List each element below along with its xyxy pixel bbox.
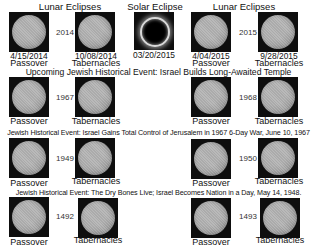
feast-label-tabernacles: Tabernacles — [249, 117, 309, 126]
lunar-eclipse-moon-icon — [194, 80, 228, 114]
lunar-eclipse-image-1949-tabernacles — [75, 138, 115, 178]
lunar-eclipse-image-2014-tabernacles — [75, 12, 115, 52]
feast-label-passover: Passover — [181, 238, 241, 245]
lunar-eclipse-moon-icon — [78, 80, 112, 114]
lunar-eclipse-image-1949-passover — [9, 138, 49, 178]
lunar-eclipse-image-2015-passover — [191, 12, 231, 52]
lunar-eclipse-moon-icon — [194, 142, 228, 176]
lunar-eclipse-moon-icon — [12, 15, 46, 49]
lunar-eclipse-image-1950-tabernacles — [258, 138, 298, 178]
feast-label-tabernacles: Tabernacles — [66, 177, 126, 186]
year-label-1968: 1968 — [238, 93, 258, 102]
lunar-eclipse-image-2015-tabernacles — [258, 12, 298, 52]
year-label-1949: 1949 — [55, 154, 75, 163]
year-label-1967: 1967 — [55, 93, 75, 102]
lunar-eclipse-image-1492-tabernacles — [78, 198, 118, 238]
feast-label-tabernacles: Tabernacles — [250, 236, 310, 245]
lunar-eclipses-title-left: Lunar Eclipses — [30, 1, 110, 12]
lunar-eclipse-image-1968-passover — [191, 77, 231, 117]
lunar-eclipse-image-1967-tabernacles — [75, 77, 115, 117]
year-label-2015: 2015 — [238, 28, 258, 37]
lunar-eclipse-moon-icon — [12, 200, 46, 234]
lunar-eclipse-moon-icon — [194, 15, 228, 49]
lunar-eclipse-moon-icon — [263, 201, 297, 235]
lunar-eclipse-moon-icon — [12, 141, 46, 175]
feast-label-tabernacles: Tabernacles — [66, 117, 126, 126]
lunar-eclipse-moon-icon — [81, 201, 115, 235]
solar-eclipse-ring-icon — [140, 17, 170, 47]
year-label-1492: 1492 — [55, 212, 75, 221]
year-label-2014: 2014 — [55, 28, 75, 37]
lunar-eclipse-image-1950-passover — [191, 139, 231, 179]
lunar-eclipse-moon-icon — [261, 141, 295, 175]
lunar-eclipse-image-1967-passover — [9, 77, 49, 117]
lunar-eclipses-title-right: Lunar Eclipses — [204, 1, 284, 12]
lunar-eclipse-moon-icon — [78, 141, 112, 175]
lunar-eclipse-moon-icon — [78, 15, 112, 49]
heading-six-day-war: Jewish Historical Event: Israel Gains To… — [0, 128, 317, 137]
year-label-1950: 1950 — [238, 154, 258, 163]
solar-eclipse-title: Solar Eclipse — [120, 1, 190, 12]
feast-label-passover: Passover — [0, 117, 59, 126]
feast-label-tabernacles: Tabernacles — [249, 177, 309, 186]
feast-label-passover: Passover — [181, 179, 241, 188]
feast-label-tabernacles: Tabernacles — [68, 236, 128, 245]
heading-dry-bones: Jewish Historical Event: The Dry Bones L… — [0, 188, 317, 197]
feast-label-passover: Passover — [0, 179, 59, 188]
year-label-1493: 1493 — [238, 212, 258, 221]
heading-upcoming-temple: Upcoming Jewish Historical Event: Israel… — [0, 67, 317, 77]
lunar-eclipse-moon-icon — [194, 201, 228, 235]
lunar-eclipse-moon-icon — [12, 80, 46, 114]
feast-label-passover: Passover — [181, 117, 241, 126]
eclipse-date: 03/20/2015 — [124, 51, 184, 59]
lunar-eclipse-image-1968-tabernacles — [258, 77, 298, 117]
solar-eclipse-image — [134, 12, 174, 50]
lunar-eclipse-moon-icon — [261, 80, 295, 114]
lunar-eclipse-image-1492-passover — [9, 197, 49, 237]
feast-label-passover: Passover — [0, 238, 59, 245]
lunar-eclipse-moon-icon — [261, 15, 295, 49]
lunar-eclipse-image-2014-passover — [9, 12, 49, 52]
lunar-eclipse-image-1493-tabernacles — [260, 198, 300, 238]
lunar-eclipse-image-1493-passover — [191, 198, 231, 238]
